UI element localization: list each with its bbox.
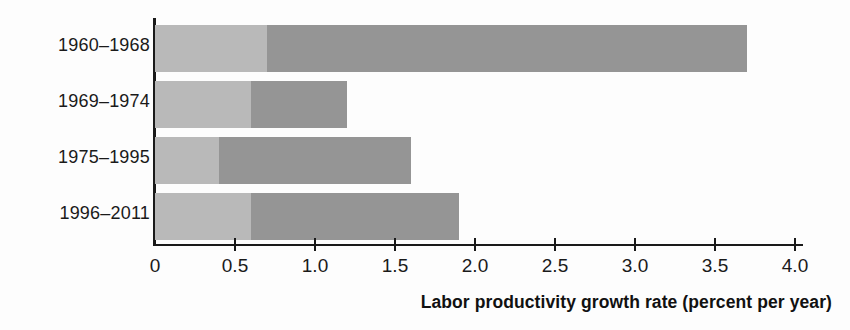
x-axis-tick bbox=[394, 238, 396, 251]
bar-row bbox=[155, 137, 411, 184]
x-axis-tick-label: 3.0 bbox=[600, 255, 670, 277]
x-axis-title: Labor productivity growth rate (percent … bbox=[0, 292, 832, 313]
x-axis-tick bbox=[634, 238, 636, 251]
y-axis-label-1969-1974: 1969–1974 bbox=[10, 91, 150, 112]
bar-segment-light bbox=[155, 81, 251, 128]
bar-chart: 1960–1968 1969–1974 1975–1995 1996–2011 … bbox=[0, 0, 850, 330]
y-axis-label-1975-1995: 1975–1995 bbox=[10, 147, 150, 168]
bar-segment-light bbox=[155, 193, 251, 240]
x-axis-tick-label: 1.0 bbox=[280, 255, 350, 277]
plot-area bbox=[155, 18, 803, 244]
x-axis-tick bbox=[314, 238, 316, 251]
bar-row bbox=[155, 193, 459, 240]
bar-segment-light bbox=[155, 137, 219, 184]
bar-segment-dark bbox=[251, 81, 347, 128]
x-axis-tick-label: 3.5 bbox=[680, 255, 750, 277]
x-axis-tick-label: 1.5 bbox=[360, 255, 430, 277]
bar-row bbox=[155, 25, 747, 72]
x-axis-tick-label: 2.0 bbox=[440, 255, 510, 277]
x-axis-tick bbox=[714, 238, 716, 251]
y-axis-label-1960-1968: 1960–1968 bbox=[10, 35, 150, 56]
y-axis-category-labels: 1960–1968 1969–1974 1975–1995 1996–2011 bbox=[5, 18, 150, 244]
x-axis-tick-label: 0 bbox=[120, 255, 190, 277]
x-axis-tick bbox=[234, 238, 236, 251]
x-axis-tick bbox=[474, 238, 476, 251]
bar-segment-light bbox=[155, 25, 267, 72]
bar-segment-dark bbox=[251, 193, 459, 240]
x-axis-line bbox=[153, 244, 803, 246]
bar-segment-dark bbox=[219, 137, 411, 184]
x-axis-tick-label: 4.0 bbox=[760, 255, 830, 277]
y-axis-label-1996-2011: 1996–2011 bbox=[10, 203, 150, 224]
x-axis-tick-label: 0.5 bbox=[200, 255, 270, 277]
bar-segment-dark bbox=[267, 25, 747, 72]
bar-row bbox=[155, 81, 347, 128]
x-axis-tick-label: 2.5 bbox=[520, 255, 590, 277]
x-axis-tick bbox=[554, 238, 556, 251]
x-axis-tick bbox=[794, 238, 796, 251]
